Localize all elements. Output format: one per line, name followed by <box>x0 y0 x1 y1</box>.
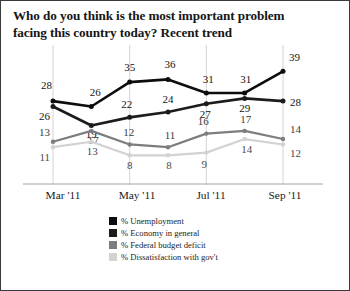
data-point <box>166 77 171 82</box>
chart-card: Who do you think is the most important p… <box>0 0 350 291</box>
legend-label: % Unemployment <box>121 217 184 226</box>
data-point <box>242 90 247 95</box>
chart-plot-area: 2826353631313926192224272928131712111617… <box>11 45 341 185</box>
legend-swatch-icon <box>109 217 117 225</box>
data-point <box>166 153 170 157</box>
data-point <box>89 140 93 144</box>
data-label: 31 <box>240 73 251 85</box>
legend-swatch-icon <box>109 229 117 237</box>
data-point <box>204 101 209 106</box>
x-axis-tick-3: Sep '11 <box>269 189 302 201</box>
data-point <box>281 142 285 146</box>
legend-label: % Dissatisfaction with gov't <box>121 253 218 262</box>
title-line-1: Who do you think is the most important p… <box>13 8 333 25</box>
data-point <box>204 150 208 154</box>
data-label: 24 <box>163 93 175 105</box>
data-label: 12 <box>290 147 301 159</box>
legend-item-0: % Unemployment <box>109 215 184 227</box>
data-label: 36 <box>165 58 177 70</box>
data-point <box>127 80 132 85</box>
data-point <box>51 140 55 144</box>
title-line-2: facing this country today? Recent trend <box>13 25 333 42</box>
data-point <box>127 115 132 120</box>
data-label: 9 <box>202 158 208 170</box>
x-axis-tick-0: Mar '11 <box>46 189 81 201</box>
line-chart-svg: 2826353631313926192224272928131712111617… <box>11 45 341 185</box>
data-point <box>281 137 285 141</box>
data-point <box>242 137 246 141</box>
page-title: Who do you think is the most important p… <box>13 8 333 41</box>
data-point <box>242 129 246 133</box>
data-label: 11 <box>39 151 50 163</box>
x-axis-tick-2: Jul '11 <box>196 189 225 201</box>
data-label: 12 <box>123 126 134 138</box>
data-point <box>242 96 247 101</box>
data-label: 13 <box>39 126 51 138</box>
legend-label: % Federal budget deficit <box>121 241 206 250</box>
series-3: 11138891412 <box>39 137 301 171</box>
x-axis: Mar '11May '11Jul '11Sep '11 <box>11 187 341 207</box>
data-label: 8 <box>127 159 133 171</box>
data-point <box>51 99 56 104</box>
data-point <box>166 145 170 149</box>
data-label: 16 <box>198 115 210 127</box>
data-label: 14 <box>290 123 302 135</box>
data-point <box>127 142 131 146</box>
data-point <box>89 123 94 128</box>
data-label: 17 <box>240 113 252 125</box>
data-point <box>281 99 286 104</box>
data-point <box>204 131 208 135</box>
data-label: 14 <box>241 143 253 155</box>
x-axis-tick-1: May '11 <box>119 189 156 201</box>
data-point <box>51 145 55 149</box>
data-label: 11 <box>165 129 176 141</box>
data-point <box>281 69 286 74</box>
data-point <box>89 104 94 109</box>
data-point <box>127 153 131 157</box>
legend-item-1: % Economy in general <box>109 227 200 239</box>
data-label: 26 <box>90 86 102 98</box>
legend-item-2: % Federal budget deficit <box>109 239 206 251</box>
data-label: 28 <box>290 96 302 108</box>
data-point <box>204 90 209 95</box>
data-point <box>166 109 171 114</box>
data-label: 22 <box>121 98 132 110</box>
data-label: 35 <box>124 61 136 73</box>
data-label: 26 <box>39 110 51 122</box>
data-label: 28 <box>41 79 53 91</box>
chart-legend: % Unemployment% Economy in general% Fede… <box>1 215 350 273</box>
legend-item-3: % Dissatisfaction with gov't <box>109 251 218 263</box>
data-point <box>89 129 93 133</box>
data-label: 31 <box>203 73 214 85</box>
data-point <box>51 104 56 109</box>
data-label: 13 <box>87 145 99 157</box>
legend-label: % Economy in general <box>121 229 200 238</box>
legend-swatch-icon <box>109 241 117 249</box>
legend-swatch-icon <box>109 253 117 261</box>
data-label: 8 <box>166 159 172 171</box>
data-label: 39 <box>289 51 301 63</box>
